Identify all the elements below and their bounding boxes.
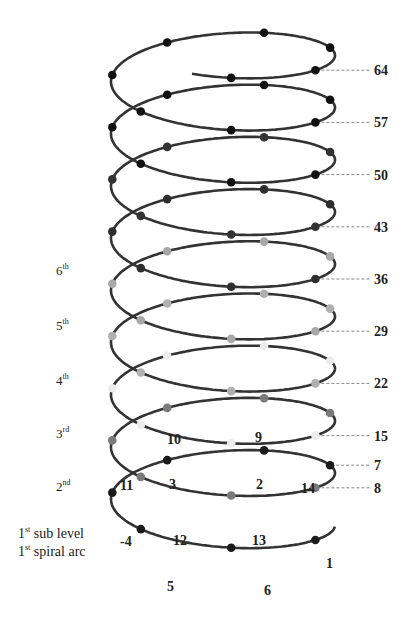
spiral-node [227,126,236,135]
spiral-node [260,185,269,194]
spiral-node [163,299,172,308]
spiral-node [326,148,335,157]
sub-level-label: 1st sub level [18,525,84,542]
spiral-node [311,275,320,284]
spiral-node [326,200,335,209]
spiral-node [137,420,146,429]
spiral-diagram: 645750433629221587123-45691011121314 6th… [0,0,414,633]
node-label-11: 11 [120,478,133,493]
spiral-node [227,282,236,291]
level-label-5: 5th [56,317,69,334]
spiral-node [227,335,236,344]
spiral-node [260,237,269,246]
spiral-node [108,436,117,445]
spiral-node [108,280,117,289]
spiral-node [227,439,236,448]
node-label-43: 43 [374,220,388,235]
spiral-node [227,491,236,500]
spiral-node [311,431,320,440]
spiral-node [137,525,146,534]
node-label-29: 29 [374,324,388,339]
spiral-node [108,332,117,341]
spiral-node [311,223,320,232]
node-label-4: -4 [120,534,132,549]
level-label-3: 3rd [56,425,69,442]
spiral-node [260,446,269,455]
node-label-7: 7 [374,458,381,473]
spiral-node [260,29,269,38]
node-label-50: 50 [374,168,388,183]
spiral-node [227,543,236,552]
spiral-node [108,175,117,184]
spiral-node [326,304,335,313]
spiral-node [326,252,335,261]
spiral-node [108,227,117,236]
spiral-node [137,159,146,168]
spiral-node [108,384,117,393]
spiral-node [227,230,236,239]
node-label-15: 15 [374,429,388,444]
spiral-node [137,368,146,377]
spiral-node [326,357,335,366]
spiral-node [326,96,335,105]
spiral-node [163,404,172,413]
spiral-node [163,247,172,256]
spiral-arc-label: 1st spiral arc [18,543,86,560]
spiral-node [260,81,269,90]
spiral-node [311,66,320,75]
spiral-node [311,170,320,179]
node-label-64: 64 [374,63,388,78]
node-label-9: 9 [255,430,262,445]
spiral-node [227,178,236,187]
spiral-node [227,387,236,396]
spiral-node [137,264,146,273]
spiral-node [163,90,172,99]
spiral-node [326,43,335,52]
node-label-6: 6 [264,583,271,598]
spiral-node [326,409,335,418]
spiral-node [260,394,269,403]
spiral-node [260,133,269,142]
spiral-node [108,123,117,132]
level-label-4: 4th [56,372,69,389]
node-label-14: 14 [301,481,315,496]
spiral-node [137,107,146,116]
spiral-node [163,38,172,47]
spiral-node [326,461,335,470]
node-label-5: 5 [167,579,174,594]
spiral-node [137,212,146,221]
spiral-node [311,327,320,336]
spiral-node [163,456,172,465]
spiral-node [227,74,236,83]
level-label-2: 2nd [56,478,71,495]
node-label-22: 22 [374,376,388,391]
node-label-10: 10 [167,432,181,447]
spiral-node [260,342,269,351]
spiral-node [108,71,117,80]
node-label-57: 57 [374,115,388,130]
node-label-8: 8 [374,481,381,496]
node-label-13: 13 [252,533,266,548]
spiral-node [311,536,320,545]
spiral-node [311,118,320,127]
node-label-12: 12 [173,533,187,548]
spiral-node [137,473,146,482]
node-label-2: 2 [256,477,263,492]
spiral-node [163,351,172,360]
spiral-node [137,316,146,325]
node-label-3: 3 [169,477,176,492]
spiral-node [260,290,269,299]
spiral-node [163,195,172,204]
spiral-node [311,379,320,388]
spiral-node [108,488,117,497]
level-label-6: 6th [56,262,69,279]
node-label-1: 1 [326,556,333,571]
node-label-36: 36 [374,272,388,287]
spiral-node [163,143,172,152]
